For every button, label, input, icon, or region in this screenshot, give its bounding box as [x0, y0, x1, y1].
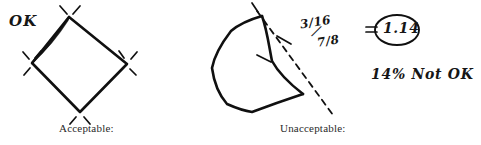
apex-extension-dash — [252, 3, 258, 12]
ok-annotation: OK — [9, 12, 38, 30]
caption-acceptable: Acceptable: — [59, 122, 114, 134]
scanned-diagram-page: OK 3/16 / 7/8 1.14 14% Not OK Acceptable… — [0, 0, 481, 145]
caption-unacceptable: Unacceptable: — [280, 122, 346, 134]
circled-ratio-value: 1.14 — [383, 20, 420, 36]
corner-extension-dashes-top — [60, 6, 80, 14]
verdict-annotation: 14% Not OK — [371, 66, 474, 82]
unacceptable-shape-outline — [212, 16, 303, 112]
acceptable-diamond-outline — [32, 17, 127, 112]
acceptable-figure-group — [23, 6, 137, 124]
